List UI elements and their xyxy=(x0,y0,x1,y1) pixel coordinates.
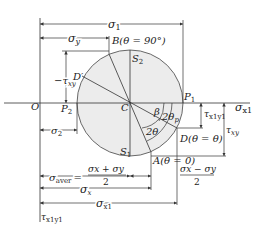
sigma-aver-numerator: σx + σy xyxy=(88,164,125,174)
tau-xy-label: τxy xyxy=(226,125,240,137)
sigma-aver-denominator: 2 xyxy=(103,177,109,187)
p1-label: P1 xyxy=(183,91,195,104)
sigma-x1-label: σx1 xyxy=(96,197,112,211)
sigma2-label: σ2 xyxy=(51,125,62,138)
sigma-y-label: σy xyxy=(68,32,81,46)
d-label: D(θ = θ) xyxy=(179,133,223,144)
two-theta-label: 2θ xyxy=(145,126,158,137)
mohr-circle-diagram: O C P1 P2 S1 S2 B(θ = 90°) A(θ = 0) D(θ … xyxy=(0,0,264,233)
sigma-aver-label: σaver= xyxy=(49,172,82,185)
origin-label: O xyxy=(31,101,39,112)
half-diff-numerator: σx − σy xyxy=(180,164,217,174)
center-label: C xyxy=(121,102,129,113)
tau-axis-label: τx1y1 xyxy=(41,212,63,224)
beta-label: β xyxy=(153,106,160,117)
half-diff-denominator: 2 xyxy=(194,177,200,187)
sigma-x-label: σx xyxy=(80,183,92,197)
b-label: B(θ = 90°) xyxy=(111,35,166,46)
sigma1-label: σ1 xyxy=(108,18,121,32)
tau-x1y1-label: τx1y1 xyxy=(204,109,226,121)
p2-label: P2 xyxy=(60,103,72,116)
